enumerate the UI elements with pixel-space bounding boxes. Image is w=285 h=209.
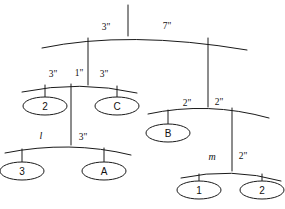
node-label: 2	[42, 101, 48, 112]
edge-label-top-left: 3"	[102, 22, 111, 32]
edge-label-right-right: 2"	[215, 97, 224, 107]
rod-group	[22, 5, 262, 183]
bar-level3-left	[5, 147, 131, 155]
node-label: 3	[19, 166, 25, 177]
mobile-diagram: 2 C 3 A B 1 2	[0, 0, 285, 209]
node-c[interactable]: C	[95, 97, 139, 115]
bar-top	[42, 39, 247, 50]
node-a[interactable]: A	[82, 162, 126, 180]
edge-label-level2-right: 3"	[100, 69, 109, 79]
edge-label-right-left: 2"	[183, 98, 192, 108]
edge-label-bottom-left: m	[208, 151, 215, 162]
edge-label-top-right: 7"	[163, 21, 172, 31]
bar-level2-left	[22, 86, 137, 93]
edge-label-level3-left: l	[40, 130, 43, 141]
node-b[interactable]: B	[146, 124, 190, 142]
node-label: A	[101, 166, 108, 177]
edge-label-bottom-right: 2"	[239, 151, 248, 161]
bar-bottom-right	[181, 173, 281, 181]
edge-label-level3-right: 3"	[79, 132, 88, 142]
node-label: 1	[196, 185, 202, 196]
node-2-right[interactable]: 2	[240, 181, 284, 199]
node-2[interactable]: 2	[23, 97, 67, 115]
edge-label-level2-center: 1"	[75, 68, 84, 78]
node-label: C	[113, 101, 120, 112]
node-label: B	[165, 128, 172, 139]
mobile-diagram-canvas: 2 C 3 A B 1 2	[0, 0, 285, 209]
node-3[interactable]: 3	[0, 162, 44, 180]
edge-label-level2-left: 3"	[49, 69, 58, 79]
bar-right	[148, 108, 269, 118]
node-1[interactable]: 1	[177, 181, 221, 199]
node-label: 2	[259, 185, 265, 196]
